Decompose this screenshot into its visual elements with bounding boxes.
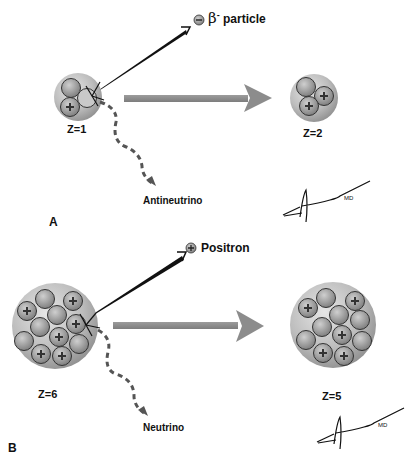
neutron xyxy=(15,332,34,351)
neutron xyxy=(297,78,316,97)
parent-nucleus-z6 xyxy=(12,283,98,369)
proton xyxy=(335,347,354,366)
panel-b: MD xyxy=(12,243,404,449)
neutron xyxy=(330,306,349,325)
beta-particle-name: particle xyxy=(223,12,266,26)
antineutrino-label: Antineutrino xyxy=(143,195,202,206)
proton xyxy=(32,345,51,364)
panel-letter-a: A xyxy=(49,215,58,229)
positron-label: Positron xyxy=(201,241,250,255)
transition-arrow xyxy=(124,84,272,112)
beta-emission-arrow xyxy=(88,27,190,98)
svg-text:MD: MD xyxy=(344,195,354,201)
neutrino-wavy-arrow xyxy=(98,330,144,413)
neutron xyxy=(353,332,372,351)
neutron xyxy=(297,331,316,350)
proton xyxy=(50,328,69,347)
daughter-z-label-a: Z=2 xyxy=(303,127,322,139)
beta-particle-label: β- particle xyxy=(208,9,266,27)
neutron xyxy=(313,318,332,337)
parent-z-label-a: Z=1 xyxy=(67,123,86,135)
beta-symbol: β xyxy=(208,9,217,27)
neutron xyxy=(31,318,50,337)
proton xyxy=(53,347,72,366)
panel-a: MD xyxy=(54,15,370,222)
proton xyxy=(61,98,80,117)
proton xyxy=(346,292,365,311)
parent-z-label-b: Z=6 xyxy=(38,388,57,400)
neutron xyxy=(48,306,67,325)
neutrino-label: Neutrino xyxy=(143,422,184,433)
daughter-z-label-b: Z=5 xyxy=(322,390,341,402)
transition-arrow xyxy=(113,310,264,342)
proton xyxy=(64,292,83,311)
proton xyxy=(333,326,352,345)
svg-text:MD: MD xyxy=(378,422,388,428)
proton xyxy=(299,299,318,318)
neutron xyxy=(351,311,370,330)
daughter-nucleus-z2 xyxy=(290,74,338,122)
panel-letter-b: B xyxy=(8,441,17,455)
positron-particle-icon xyxy=(186,243,196,253)
beta-superscript: - xyxy=(217,10,220,20)
signature: MD xyxy=(317,408,404,449)
proton xyxy=(300,97,319,116)
daughter-nucleus-z5 xyxy=(290,282,376,368)
beta-minus-particle-icon xyxy=(194,15,204,25)
neutron xyxy=(70,335,89,354)
signature: MD xyxy=(283,181,370,222)
neutron xyxy=(36,290,55,309)
antineutrino-wavy-arrow xyxy=(100,102,152,183)
beta-decay-diagram: MD xyxy=(0,0,417,464)
decaying-proton xyxy=(67,315,86,334)
proton xyxy=(314,344,333,363)
proton xyxy=(18,302,37,321)
neutron xyxy=(317,289,336,308)
